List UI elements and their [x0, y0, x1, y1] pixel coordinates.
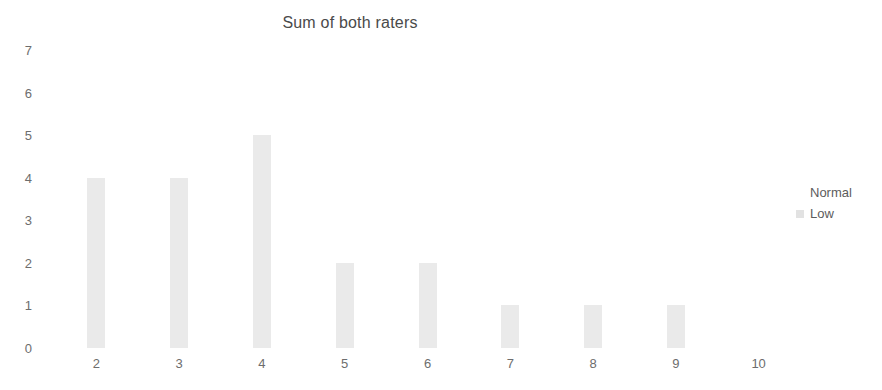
bar-3: [170, 178, 188, 348]
legend-item-label: Low: [810, 206, 834, 221]
y-axis-tick-label: 4: [25, 170, 32, 185]
y-axis-tick-label: 7: [25, 43, 32, 58]
chart-legend: NormalLow: [796, 182, 882, 224]
bar-4: [253, 135, 271, 348]
x-axis-tick-label: 2: [93, 356, 100, 371]
chart-title: Sum of both raters: [0, 14, 700, 32]
legend-swatch-icon: [796, 189, 804, 197]
x-axis-tick-label: 7: [507, 356, 514, 371]
y-axis-tick-label: 0: [25, 341, 32, 356]
y-axis-tick-label: 3: [25, 213, 32, 228]
bar-8: [584, 305, 602, 348]
y-axis-tick-label: 2: [25, 255, 32, 270]
y-axis-tick-label: 5: [25, 128, 32, 143]
bar-2: [87, 178, 105, 348]
x-axis-tick-label: 5: [341, 356, 348, 371]
bar-5: [336, 263, 354, 348]
bars-layer: [55, 50, 800, 348]
x-axis-tick-label: 3: [176, 356, 183, 371]
bar-9: [667, 305, 685, 348]
y-axis-tick-label: 1: [25, 298, 32, 313]
x-axis-tick-label: 4: [258, 356, 265, 371]
x-axis: 2345678910: [55, 348, 800, 376]
legend-item-low[interactable]: Low: [796, 203, 882, 224]
legend-item-label: Normal: [810, 185, 852, 200]
y-axis-tick-label: 6: [25, 85, 32, 100]
bar-7: [501, 305, 519, 348]
y-axis: 01234567: [0, 50, 55, 348]
legend-item-normal[interactable]: Normal: [796, 182, 882, 203]
bar-6: [419, 263, 437, 348]
x-axis-tick-label: 8: [589, 356, 596, 371]
legend-swatch-icon: [796, 210, 804, 218]
x-axis-tick-label: 9: [672, 356, 679, 371]
x-axis-tick-label: 10: [751, 356, 765, 371]
x-axis-tick-label: 6: [424, 356, 431, 371]
chart-container: Sum of both raters 01234567 2345678910 N…: [0, 0, 882, 390]
